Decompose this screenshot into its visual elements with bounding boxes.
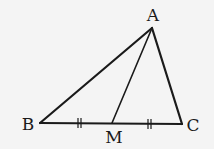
label-c: C (186, 115, 199, 135)
label-m: M (105, 127, 122, 147)
label-a: A (146, 5, 160, 25)
segment-ab (40, 28, 152, 123)
segment-ac (152, 28, 182, 124)
label-b: B (22, 114, 35, 134)
segment-bc (40, 123, 182, 124)
triangle-diagram: A B C M (0, 0, 214, 149)
segment-am (112, 28, 152, 123)
